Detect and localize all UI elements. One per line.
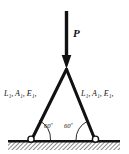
member-right	[67, 70, 96, 142]
member-right-label: L₁, A₁, E₁,	[81, 90, 113, 98]
angle-arc-right	[76, 122, 87, 141]
truss-diagram: P L₁, A₁, E₁, L₁, A₁, E₁, 60º 60º	[0, 0, 129, 154]
angle-right-label: 60º	[64, 123, 73, 130]
support-right	[92, 136, 98, 142]
angle-left-label: 60º	[44, 123, 53, 130]
load-arrow	[62, 11, 72, 69]
ground-hatching	[8, 141, 120, 150]
member-left-label: L₁, A₁, E₁,	[4, 90, 36, 98]
load-label: P	[73, 28, 80, 39]
support-left	[28, 136, 34, 142]
diagram-canvas	[0, 0, 129, 154]
